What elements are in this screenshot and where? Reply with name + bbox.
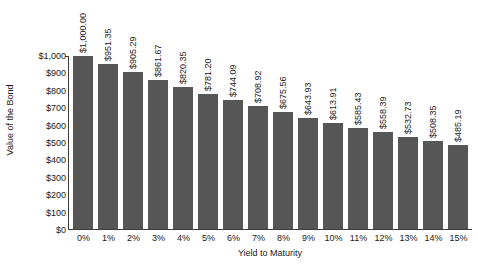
bar-slot: $532.73 <box>396 56 421 229</box>
y-axis-tick-label: $500 <box>18 138 66 148</box>
bar[interactable]: $905.29 <box>123 72 143 229</box>
bar-slot: $820.35 <box>171 56 196 229</box>
x-axis-tick-label: 14% <box>421 232 446 244</box>
bar-value-label: $781.20 <box>198 58 208 91</box>
bar-slot: $485.19 <box>446 56 471 229</box>
bar-value-label-text: $558.39 <box>378 97 388 130</box>
y-axis-tick-label: $400 <box>18 155 66 165</box>
y-axis-tick-label: $700 <box>18 103 66 113</box>
y-axis-tick-label: $0 <box>18 225 66 235</box>
bar-value-label: $585.43 <box>348 92 358 125</box>
x-axis-tick-label: 15% <box>446 232 471 244</box>
bar-series: $1,000.00$951.35$905.29$861.67$820.35$78… <box>68 56 472 230</box>
bar-value-label: $643.93 <box>298 82 308 115</box>
y-axis-tick-labels: $0$100$200$300$400$500$600$700$800$900$1… <box>18 56 66 230</box>
bar-value-label-text: $532.73 <box>403 101 413 134</box>
x-axis-tick-label: 7% <box>246 232 271 244</box>
bar-value-label: $1,000.00 <box>73 13 83 53</box>
bar-value-label-text: $861.67 <box>153 44 163 77</box>
bar-slot: $744.09 <box>221 56 246 229</box>
bar[interactable]: $585.43 <box>348 128 368 229</box>
bar[interactable]: $708.92 <box>248 106 268 229</box>
bar-value-label: $820.35 <box>173 52 183 85</box>
x-axis-tick-labels: 0%1%2%3%4%5%6%7%8%9%10%11%12%13%14%15% <box>68 232 472 246</box>
x-axis-tick-label: 13% <box>396 232 421 244</box>
bar-slot: $1,000.00 <box>71 56 96 229</box>
bar[interactable]: $861.67 <box>148 80 168 229</box>
bar[interactable]: $613.91 <box>323 123 343 229</box>
bar-value-label: $675.56 <box>273 77 283 110</box>
bar[interactable]: $532.73 <box>398 137 418 229</box>
x-axis-tick-label: 9% <box>296 232 321 244</box>
bar-value-label: $508.35 <box>423 106 433 139</box>
bond-value-bar-chart: Value of the Bond $0$100$200$300$400$500… <box>0 0 478 279</box>
bar-slot: $708.92 <box>246 56 271 229</box>
bar-slot: $861.67 <box>146 56 171 229</box>
x-axis-tick-label: 4% <box>171 232 196 244</box>
bar-value-label-text: $675.56 <box>278 77 288 110</box>
bar-value-label-text: $744.09 <box>228 65 238 98</box>
bar-value-label: $951.35 <box>98 29 108 62</box>
x-axis-tick-label: 0% <box>71 232 96 244</box>
bar-slot: $781.20 <box>196 56 221 229</box>
bar-value-label: $861.67 <box>148 44 158 77</box>
x-axis-tick-label: 6% <box>221 232 246 244</box>
bar-value-label-text: $508.35 <box>428 106 438 139</box>
bar[interactable]: $558.39 <box>373 132 393 229</box>
bar[interactable]: $820.35 <box>173 87 193 229</box>
bar-value-label-text: $613.91 <box>328 87 338 120</box>
bar-value-label: $558.39 <box>373 97 383 130</box>
bar[interactable]: $675.56 <box>273 112 293 229</box>
bar-value-label-text: $820.35 <box>178 52 188 85</box>
bar[interactable]: $744.09 <box>223 100 243 229</box>
x-axis-tick-label: 10% <box>321 232 346 244</box>
y-axis-tick-label: $300 <box>18 173 66 183</box>
x-axis-tick-label: 1% <box>96 232 121 244</box>
y-axis-tick-label: $900 <box>18 68 66 78</box>
bar-value-label: $485.19 <box>448 110 458 143</box>
bar-value-label: $905.29 <box>123 37 133 70</box>
bar-slot: $585.43 <box>346 56 371 229</box>
x-axis-title: Yield to Maturity <box>68 248 472 258</box>
y-axis-tick-label: $600 <box>18 121 66 131</box>
bar[interactable]: $643.93 <box>298 118 318 229</box>
bar-value-label: $613.91 <box>323 87 333 120</box>
bar-value-label: $708.92 <box>248 71 258 104</box>
bar[interactable]: $951.35 <box>98 64 118 229</box>
bar-value-label-text: $485.19 <box>453 110 463 143</box>
y-axis-tick-label: $1,000 <box>18 51 66 61</box>
y-axis-tick-label: $200 <box>18 190 66 200</box>
bar-slot: $643.93 <box>296 56 321 229</box>
bar-slot: $675.56 <box>271 56 296 229</box>
x-axis-tick-label: 8% <box>271 232 296 244</box>
bar-value-label-text: $585.43 <box>353 92 363 125</box>
bar[interactable]: $1,000.00 <box>73 56 93 229</box>
bar[interactable]: $781.20 <box>198 94 218 229</box>
bar[interactable]: $508.35 <box>423 141 443 229</box>
plot-area: $1,000.00$951.35$905.29$861.67$820.35$78… <box>68 56 472 230</box>
bar-slot: $558.39 <box>371 56 396 229</box>
x-axis-tick-label: 5% <box>196 232 221 244</box>
bar[interactable]: $485.19 <box>448 145 468 229</box>
bar-value-label-text: $643.93 <box>303 82 313 115</box>
y-axis-title-text: Value of the Bond <box>5 85 15 156</box>
y-axis-title: Value of the Bond <box>0 0 20 240</box>
bar-slot: $508.35 <box>421 56 446 229</box>
bar-value-label: $744.09 <box>223 65 233 98</box>
bar-slot: $905.29 <box>121 56 146 229</box>
bar-value-label: $532.73 <box>398 101 408 134</box>
x-axis-tick-label: 2% <box>121 232 146 244</box>
y-axis-tick-label: $100 <box>18 208 66 218</box>
bar-value-label-text: $1,000.00 <box>78 13 88 53</box>
bar-value-label-text: $781.20 <box>203 58 213 91</box>
x-axis-tick-label: 12% <box>371 232 396 244</box>
y-axis-tick-label: $800 <box>18 86 66 96</box>
bar-slot: $951.35 <box>96 56 121 229</box>
bar-slot: $613.91 <box>321 56 346 229</box>
x-axis-tick-label: 11% <box>346 232 371 244</box>
bar-value-label-text: $951.35 <box>103 29 113 62</box>
bar-value-label-text: $708.92 <box>253 71 263 104</box>
x-axis-tick-label: 3% <box>146 232 171 244</box>
bar-value-label-text: $905.29 <box>128 37 138 70</box>
